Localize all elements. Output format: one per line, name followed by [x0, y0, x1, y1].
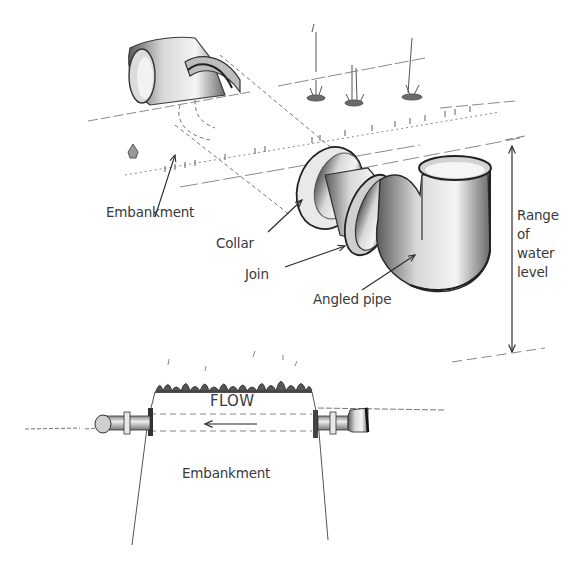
label-embankment-section: Embankment: [182, 466, 270, 481]
join-leader: [285, 246, 345, 267]
cross-section-view: [25, 351, 445, 545]
label-embankment-top: Embankment: [106, 205, 194, 220]
collar-leader: [268, 200, 302, 232]
outlet-pipe: [95, 412, 150, 434]
top-view: [88, 24, 545, 362]
far-pipe: [129, 37, 240, 105]
collar-right: [313, 410, 318, 438]
pipe-embankment-illustration: [0, 0, 586, 572]
label-collar: Collar: [216, 236, 254, 251]
label-range-line-4: level: [517, 263, 586, 282]
label-range-line-1: Range: [517, 206, 586, 225]
label-angled-pipe: Angled pipe: [313, 292, 391, 307]
label-flow: FLOW: [210, 394, 254, 409]
ground-line-right: [318, 408, 445, 410]
near-pipe: [286, 138, 491, 292]
grass-crest: [156, 351, 312, 391]
label-range-line-2: of: [517, 225, 586, 244]
label-range-line-3: water: [517, 244, 586, 263]
inlet-angled-pipe: [318, 408, 368, 434]
label-join: Join: [245, 267, 269, 282]
ground-line-left: [25, 428, 98, 429]
label-range-of-water-level: Range of water level: [517, 206, 586, 282]
